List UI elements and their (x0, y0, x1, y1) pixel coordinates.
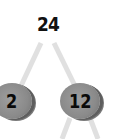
factor-tree: 24 2 12 (0, 0, 114, 139)
edge-root-right (54, 43, 76, 88)
right-child-node: 12 (60, 83, 100, 119)
edge-right-right-child (90, 118, 98, 139)
right-child-label: 12 (69, 90, 91, 112)
edge-right-left-child (62, 118, 70, 139)
root-node-label: 24 (34, 12, 61, 36)
edge-root-left (20, 43, 41, 88)
left-child-label: 2 (6, 90, 17, 112)
